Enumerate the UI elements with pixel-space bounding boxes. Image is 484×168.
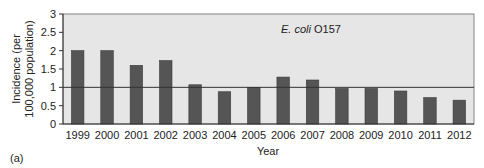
x-tick-label: 2006: [271, 129, 295, 141]
bar: [336, 88, 349, 124]
y-tick-label: 3: [50, 8, 56, 20]
x-tick-label: 2012: [447, 129, 471, 141]
x-tick-label: 2007: [300, 129, 324, 141]
x-tick-label: 2011: [418, 129, 442, 141]
plot-area: 00.511.522.53199920002001200220032004200…: [10, 8, 474, 157]
x-tick-label: 1999: [65, 129, 89, 141]
x-tick-label: 2000: [95, 129, 119, 141]
x-tick-label: 2008: [330, 129, 354, 141]
y-axis-label-line1: Incidence (per: [10, 34, 22, 104]
plot-background: [63, 14, 474, 124]
bar: [394, 91, 407, 124]
x-tick-label: 2002: [154, 129, 178, 141]
y-tick-label: 1.5: [41, 63, 56, 75]
incidence-bar-chart: 00.511.522.53199920002001200220032004200…: [0, 0, 484, 168]
panel-label: (a): [10, 152, 23, 164]
bar: [453, 100, 466, 124]
y-tick-label: 0.5: [41, 100, 56, 112]
y-tick-label: 2.5: [41, 26, 56, 38]
y-tick-label: 1: [50, 81, 56, 93]
x-tick-label: 2003: [183, 129, 207, 141]
bar: [218, 92, 231, 124]
bar: [130, 65, 143, 124]
bar: [365, 88, 378, 124]
x-axis-label: Year: [257, 145, 280, 157]
x-tick-label: 2004: [212, 129, 236, 141]
x-tick-label: 2005: [242, 129, 266, 141]
bar: [277, 77, 290, 124]
bar: [424, 98, 437, 124]
bar: [160, 61, 173, 124]
x-tick-label: 2009: [359, 129, 383, 141]
y-axis-label-line2: 100,000 population): [23, 20, 35, 117]
bar: [189, 85, 202, 124]
x-tick-label: 2010: [388, 129, 412, 141]
y-tick-label: 0: [50, 118, 56, 130]
series-annotation: E. coli O157: [281, 23, 341, 35]
bar: [248, 87, 260, 124]
bar: [306, 80, 319, 124]
x-tick-label: 2001: [124, 129, 148, 141]
y-tick-label: 2: [50, 45, 56, 57]
